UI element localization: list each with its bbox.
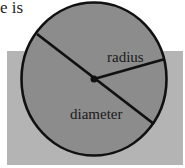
radius-label: radius <box>107 49 144 65</box>
diameter-label: diameter <box>70 106 122 122</box>
circle-diagram: radius diameter <box>0 0 185 168</box>
center-point <box>91 76 98 83</box>
